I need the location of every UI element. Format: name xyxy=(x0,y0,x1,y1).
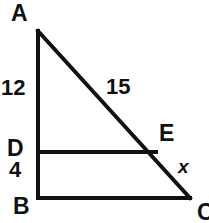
triangle-diagram-svg xyxy=(0,0,209,223)
measure-label-ec-unknown: x xyxy=(178,157,189,176)
vertex-label-e: E xyxy=(159,122,174,145)
geometry-figure: A B C D E 12 15 4 x xyxy=(0,0,209,223)
measure-label-ad: 12 xyxy=(1,77,25,99)
vertex-label-a: A xyxy=(11,2,28,25)
measure-label-db: 4 xyxy=(9,159,21,181)
vertex-label-c: C xyxy=(197,201,209,223)
segment-ac-hypotenuse xyxy=(38,31,190,198)
measure-label-ae: 15 xyxy=(106,76,130,98)
vertex-label-b: B xyxy=(13,195,30,218)
